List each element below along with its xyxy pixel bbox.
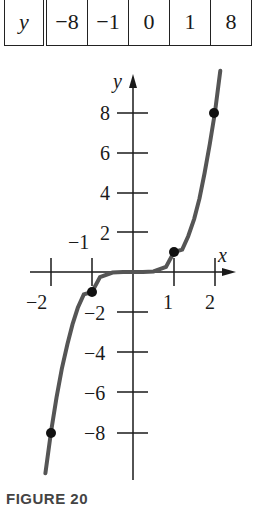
y-axis-label: y — [111, 70, 122, 93]
x-tick-label: 1 — [163, 291, 173, 313]
point-neg1 — [87, 287, 97, 297]
y-tick-label: −6 — [84, 382, 105, 404]
x-axis-label: x — [217, 244, 227, 266]
x-tick-label: −2 — [26, 291, 47, 313]
y-tick-label: 6 — [100, 142, 110, 164]
y-axis-arrow-icon — [129, 74, 137, 88]
y-tick-label: 2 — [100, 222, 110, 244]
y-tick-label: 8 — [100, 102, 110, 124]
x-tick-label: 2 — [205, 291, 215, 313]
y-tick-label: −8 — [84, 422, 105, 444]
point-neg2 — [46, 428, 56, 438]
y-tick-label: 4 — [100, 182, 110, 204]
cubic-graph: y x 8 6 4 2 −2 −4 −6 −8 −2 −1 1 2 — [0, 0, 257, 519]
figure-caption: FIGURE 20 — [6, 490, 88, 507]
x-tick-label: −1 — [68, 231, 89, 253]
x-axis-arrow-icon — [222, 268, 236, 276]
y-tick-label: −2 — [84, 302, 105, 324]
point-1 — [169, 247, 179, 257]
point-2 — [209, 108, 219, 118]
y-tick-label: −4 — [84, 342, 105, 364]
